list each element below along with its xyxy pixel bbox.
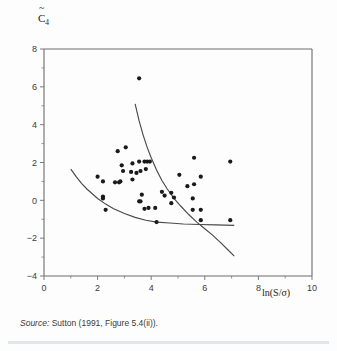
- data-point: [137, 159, 141, 163]
- x-tick-label: 8: [256, 283, 261, 293]
- y-tick-label: 0: [32, 196, 37, 206]
- axis-frame: [44, 49, 312, 276]
- y-axis-label-symbol: C: [38, 12, 45, 24]
- data-point: [228, 159, 232, 163]
- data-point: [130, 177, 134, 181]
- data-point: [172, 195, 176, 199]
- data-point: [118, 179, 122, 183]
- data-point: [228, 218, 232, 222]
- scatter-chart: −4−2024680246810: [0, 0, 337, 310]
- data-point: [177, 173, 181, 177]
- y-axis-label-subscript: 4: [45, 18, 49, 27]
- x-tick-label: 4: [149, 283, 154, 293]
- figure-container: −4−2024680246810 C4 ln(S/σ) Source: Sutt…: [0, 0, 337, 351]
- data-point: [120, 163, 124, 167]
- steep-curve: [135, 104, 234, 256]
- data-point: [137, 76, 141, 80]
- data-point: [154, 220, 158, 224]
- data-point: [116, 149, 120, 153]
- data-point: [169, 191, 173, 195]
- data-point: [169, 201, 173, 205]
- data-point: [142, 207, 146, 211]
- y-tick-label: 8: [32, 44, 37, 54]
- data-point: [191, 196, 195, 200]
- data-point: [192, 156, 196, 160]
- x-tick-label: 2: [95, 283, 100, 293]
- x-tick-label: 6: [202, 283, 207, 293]
- data-point: [138, 169, 142, 173]
- chart-plot-area: −4−2024680246810: [0, 0, 337, 310]
- x-tick-label: 10: [307, 283, 317, 293]
- data-point: [191, 208, 195, 212]
- data-point: [130, 161, 134, 165]
- source-caption: Source: Sutton (1991, Figure 5.4(ii)).: [20, 318, 158, 328]
- y-tick-label: −2: [27, 233, 37, 243]
- data-point: [199, 175, 203, 179]
- y-tick-label: 2: [32, 158, 37, 168]
- x-tick-label: 0: [41, 283, 46, 293]
- y-tick-label: −4: [27, 271, 37, 281]
- data-point: [140, 193, 144, 197]
- data-point: [129, 170, 133, 174]
- data-point: [113, 180, 117, 184]
- data-point: [121, 169, 125, 173]
- data-point: [146, 206, 150, 210]
- data-point: [148, 159, 152, 163]
- x-axis-label: ln(S/σ): [262, 287, 290, 298]
- data-point: [124, 145, 128, 149]
- data-point: [104, 208, 108, 212]
- data-point: [138, 199, 142, 203]
- data-point: [96, 175, 100, 179]
- y-tick-label: 4: [32, 120, 37, 130]
- data-point: [160, 190, 164, 194]
- data-point: [134, 171, 138, 175]
- data-point: [199, 218, 203, 222]
- source-label: Source:: [20, 318, 49, 328]
- source-citation: Sutton (1991, Figure 5.4(ii)).: [49, 318, 158, 328]
- data-point: [153, 206, 157, 210]
- data-point: [163, 194, 167, 198]
- data-point: [192, 182, 196, 186]
- data-point: [185, 184, 189, 188]
- data-point: [101, 196, 105, 200]
- bottom-divider: [8, 341, 329, 344]
- data-point: [144, 167, 148, 171]
- data-point: [199, 208, 203, 212]
- y-tick-label: 6: [32, 82, 37, 92]
- flat-curve: [71, 169, 234, 225]
- y-axis-label: C4: [38, 12, 49, 27]
- data-point: [101, 179, 105, 183]
